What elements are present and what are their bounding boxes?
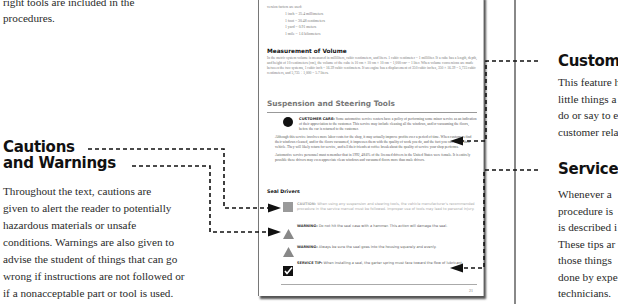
warning-connector-line <box>132 166 268 232</box>
arrow-head-icon <box>450 264 463 273</box>
arrow-head-icon <box>450 137 463 146</box>
customer-care-connector-line <box>462 61 538 141</box>
arrow-head-icon <box>268 228 281 237</box>
arrow-head-icon <box>268 204 281 213</box>
service-tip-connector-line <box>462 170 538 268</box>
callout-connectors <box>0 0 618 304</box>
caution-connector-line <box>88 149 268 208</box>
